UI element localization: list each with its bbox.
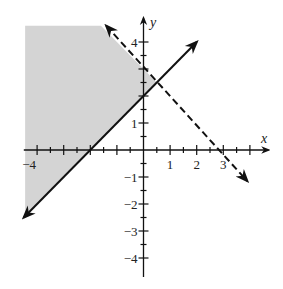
- y-tick-label: −3: [124, 224, 138, 239]
- x-axis-label: x: [260, 131, 268, 146]
- y-tick-label: −1: [124, 170, 138, 185]
- inequality-graph: x y −412341−1−2−3−4: [0, 0, 283, 289]
- x-tick-label: 3: [220, 157, 227, 172]
- y-tick-label: 4: [131, 35, 138, 50]
- y-tick-label: 1: [131, 116, 138, 131]
- x-tick-label: 1: [167, 157, 174, 172]
- x-tick-label: −4: [22, 157, 36, 172]
- x-tick-label: 2: [193, 157, 200, 172]
- y-tick-label: −2: [124, 197, 138, 212]
- y-tick-label: −4: [124, 251, 138, 266]
- y-axis-label: y: [148, 15, 157, 30]
